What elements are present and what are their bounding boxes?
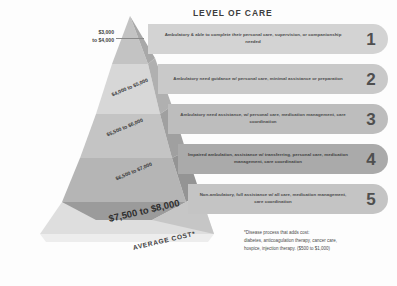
care-level-3-description: Ambulatory need assistance, w/ personal … bbox=[168, 112, 354, 126]
care-level-row-2[interactable]: Ambulatory need guidance w/ personal car… bbox=[158, 64, 388, 94]
care-level-row-3[interactable]: Ambulatory need assistance, w/ personal … bbox=[168, 104, 388, 134]
care-level-4-number: 4 bbox=[354, 151, 388, 168]
apex-price-line2: to $4,000 bbox=[52, 37, 114, 45]
footnote-line-2: diabetes, anticoagulation therapy, cance… bbox=[244, 237, 389, 245]
care-level-5-number: 5 bbox=[354, 191, 388, 208]
care-level-2-number: 2 bbox=[354, 71, 388, 88]
care-level-5-description: Non-ambulatory, full assistance w/ all c… bbox=[188, 192, 354, 206]
apex-price-callout: $3,000 to $4,000 bbox=[52, 29, 114, 44]
care-level-3-number: 3 bbox=[354, 111, 388, 128]
footnote-line-1: *Disease process that adds cost: bbox=[244, 229, 389, 237]
care-level-row-4[interactable]: Impaired ambulation, assistance w/ trans… bbox=[178, 144, 388, 174]
care-level-1-number: 1 bbox=[354, 31, 388, 48]
care-level-row-1[interactable]: Ambulatory & able to complete their pers… bbox=[148, 24, 388, 54]
care-level-row-5[interactable]: Non-ambulatory, full assistance w/ all c… bbox=[188, 184, 388, 214]
pyramid-tier-3-left bbox=[80, 114, 172, 158]
care-level-4-description: Impaired ambulation, assistance w/ trans… bbox=[178, 152, 354, 166]
infographic-canvas: LEVEL OF CARE $3,000 to $4,000 $4,000 to… bbox=[0, 0, 397, 286]
apex-price-line1: $3,000 bbox=[52, 29, 114, 37]
care-level-1-description: Ambulatory & able to complete their pers… bbox=[148, 32, 354, 46]
page-title: LEVEL OF CARE bbox=[193, 8, 273, 18]
apex-callout-leader-line bbox=[116, 38, 144, 39]
footnote: *Disease process that adds cost: diabete… bbox=[244, 229, 389, 253]
care-level-2-description: Ambulatory need guidance w/ personal car… bbox=[158, 76, 354, 83]
footnote-line-3: hospice, injection therapy. ($500 to $1,… bbox=[244, 245, 389, 253]
